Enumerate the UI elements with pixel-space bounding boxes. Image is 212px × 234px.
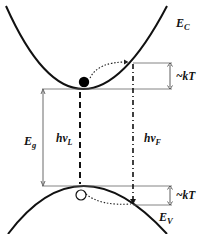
conduction-band-label: EC [175,16,190,32]
upper-kt-label: ~kT [176,70,196,82]
hole-thermalization-arrow [86,194,131,204]
electron-icon [79,77,89,87]
conduction-band-curve [6,6,167,89]
fluorescence-photon-label: hνF [144,132,162,147]
valence-band-label: EV [158,210,174,226]
electron-thermalization-arrow [90,62,126,78]
band-diagram: EC EV Eg hνL hνF ~kT ~kT [0,0,212,234]
hole-icon [76,190,86,200]
valence-band-curve [8,186,167,234]
laser-photon-label: hνL [56,132,73,147]
lower-kt-label: ~kT [176,189,196,201]
band-gap-label: Eg [23,134,37,150]
